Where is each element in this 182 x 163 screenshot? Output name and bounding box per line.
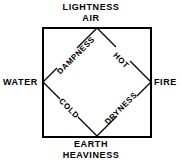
label-water: WATER	[3, 77, 38, 87]
label-lightness: LIGHTNESS	[0, 2, 182, 12]
four-elements-diagram: LIGHTNESS AIR WATER FIRE EARTH HEAVINESS…	[0, 0, 182, 163]
outer-square	[43, 28, 151, 137]
label-earth: EARTH	[0, 139, 182, 149]
label-fire: FIRE	[154, 77, 177, 87]
label-air: AIR	[0, 13, 182, 23]
label-heaviness: HEAVINESS	[0, 150, 182, 160]
